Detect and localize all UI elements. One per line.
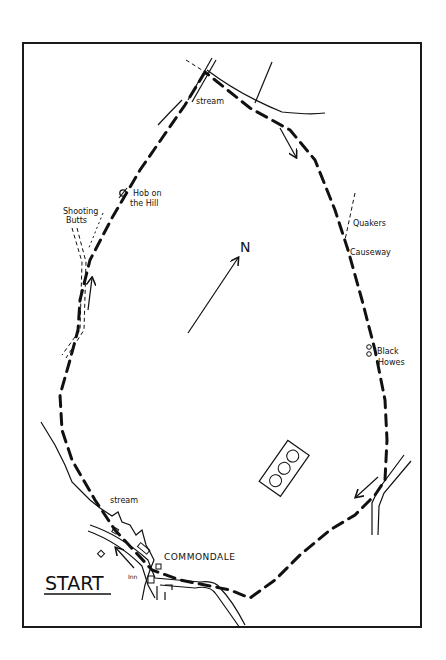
inn-label: Inn [128, 573, 138, 580]
hob-on-hill-label-2: the Hill [130, 199, 158, 208]
commondale-label: Commondale [164, 552, 235, 562]
top-road [158, 58, 325, 125]
shooting-butts-label-2: Butts [66, 216, 87, 225]
quakers-causeway-label: Quakers [353, 219, 386, 228]
start-label: START [45, 572, 104, 594]
plantation [259, 440, 309, 496]
hob-on-hill-label: Hob on [133, 189, 162, 198]
village-buildings [97, 527, 172, 600]
shooting-butts-label: Shooting [63, 207, 98, 216]
stream-bottom-label: stream [110, 496, 138, 505]
black-howes-label-2: Howes [378, 358, 405, 367]
stream-top-label: stream [196, 97, 224, 106]
north-arrow-icon [188, 258, 238, 333]
right-road [372, 455, 411, 535]
direction-arrow-north [88, 278, 92, 310]
shooting-butts-tracks [62, 213, 103, 358]
black-howes-marker [367, 345, 372, 357]
north-label: N [240, 239, 250, 255]
black-howes-label: Black [377, 347, 399, 356]
walk-route [60, 72, 387, 598]
walk-route-map: stream Hob on the Hill Shooting Butts Qu… [0, 0, 446, 660]
quakers-causeway-label-2: Causeway [350, 248, 391, 257]
quakers-causeway-path [345, 193, 355, 240]
